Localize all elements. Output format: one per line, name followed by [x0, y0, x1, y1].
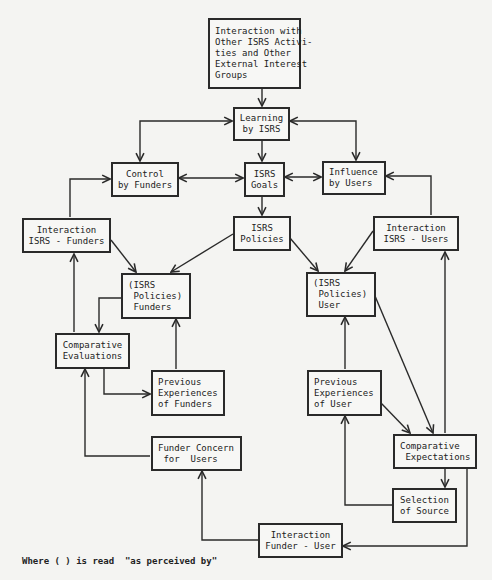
node-text: ISRS	[251, 223, 273, 234]
node-text: of Funders	[158, 399, 212, 410]
node-text: Control	[126, 169, 164, 180]
node-text: Selection	[400, 495, 449, 506]
node-text: Groups	[215, 70, 248, 81]
node-text: Interaction	[386, 223, 446, 234]
node-text: Interaction	[37, 225, 97, 236]
node-policies-perceived-by-user: (ISRS Policies) User	[306, 272, 376, 317]
node-text: Goals	[251, 180, 278, 191]
node-text: Comparative	[400, 441, 460, 452]
node-text: Previous	[158, 377, 201, 388]
node-text: Evaluations	[63, 351, 123, 362]
node-text: Influence	[329, 167, 378, 178]
node-text: Other ISRS Activi-	[215, 37, 313, 48]
node-text: User	[313, 300, 340, 311]
node-text: Policies)	[313, 289, 367, 300]
node-previous-experiences-user: Previous Experiences of User	[307, 370, 382, 416]
node-text: Learning	[240, 113, 283, 124]
node-isrs-goals: ISRS Goals	[244, 162, 285, 197]
node-funder-concern-for-users: Funder Concern for Users	[151, 436, 242, 471]
node-comparative-evaluations: Comparative Evaluations	[55, 333, 130, 369]
node-text: (ISRS	[313, 278, 340, 289]
node-external-interest-groups: Interaction with Other ISRS Activi- ties…	[208, 18, 301, 89]
node-text: Comparative	[63, 340, 123, 351]
node-text: Policies)	[128, 291, 182, 302]
node-text: by Funders	[118, 180, 172, 191]
node-text: Previous	[314, 377, 357, 388]
node-policies-perceived-by-funders: (ISRS Policies) Funders	[121, 273, 191, 319]
node-text: Interaction with	[215, 26, 302, 37]
node-text: ties and Other	[215, 48, 291, 59]
node-interaction-isrs-funders: Interaction ISRS - Funders	[22, 218, 111, 253]
node-text: (ISRS	[128, 280, 155, 291]
node-isrs-policies: ISRS Policies	[233, 216, 291, 251]
node-text: Funders	[128, 302, 171, 313]
node-text: Experiences	[314, 388, 374, 399]
node-text: Interaction	[271, 530, 331, 541]
node-text: Experiences	[158, 388, 218, 399]
node-text: for Users	[158, 454, 218, 465]
node-text: External Interest	[215, 59, 307, 70]
node-text: by ISRS	[243, 124, 281, 135]
node-control-by-funders: Control by Funders	[111, 162, 179, 197]
node-text: of Source	[400, 506, 449, 517]
isrs-flow-diagram: Interaction with Other ISRS Activi- ties…	[0, 0, 492, 580]
node-learning-by-isrs: Learning by ISRS	[233, 107, 290, 141]
node-comparative-expectations: Comparative Expectations	[393, 434, 477, 469]
node-text: Policies	[240, 234, 283, 245]
footnote-legend: Where ( ) is read "as perceived by"	[22, 556, 217, 566]
node-text: Funder Concern	[158, 443, 234, 454]
node-interaction-funder-user: Interaction Funder - User	[258, 523, 343, 558]
node-text: ISRS - Users	[383, 234, 448, 245]
node-text: Funder - User	[265, 541, 335, 552]
node-text: ISRS	[254, 169, 276, 180]
node-text: of User	[314, 399, 352, 410]
node-interaction-isrs-users: Interaction ISRS - Users	[373, 216, 459, 251]
node-text: ISRS - Funders	[29, 236, 105, 247]
node-selection-of-source: Selection of Source	[392, 488, 457, 523]
node-influence-by-users: Influence by Users	[322, 161, 386, 195]
node-text: Expectations	[400, 452, 470, 463]
node-text: by Users	[329, 178, 372, 189]
node-previous-experiences-funders: Previous Experiences of Funders	[151, 370, 225, 416]
